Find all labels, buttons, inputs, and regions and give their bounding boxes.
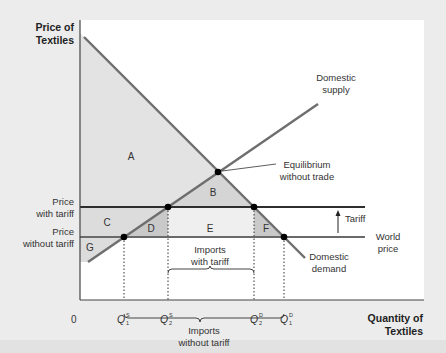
supply-label-2: supply (322, 84, 350, 95)
world-price-label-1: World (376, 231, 401, 242)
svg-text:1: 1 (126, 320, 129, 326)
area-f-label: F (263, 223, 269, 234)
svg-text:Q: Q (117, 313, 125, 325)
area-e-label: E (207, 223, 214, 234)
svg-text:S: S (169, 312, 173, 318)
price-without-tariff-label-1: Price (52, 226, 74, 237)
price-with-tariff-label-2: with tariff (35, 208, 74, 219)
point-q2d (251, 204, 258, 211)
svg-text:2: 2 (259, 320, 262, 326)
quantity-q2s: Q S 2 (160, 312, 173, 326)
x-axis-label-2: Textiles (385, 325, 423, 337)
price-with-tariff-label-1: Price (52, 196, 74, 207)
tariff-diagram: Price of Textiles Quantity of Textiles 0… (0, 0, 446, 353)
point-q1d (281, 234, 288, 241)
quantity-q2d: Q D 2 (250, 312, 263, 326)
demand-label-1: Domestic (309, 251, 349, 262)
imports-without-tariff-label-2: without tariff (177, 337, 229, 348)
svg-text:Q: Q (280, 313, 288, 325)
svg-text:Q: Q (160, 313, 168, 325)
quantity-q1s: Q S 1 (117, 312, 130, 326)
x-axis-label-1: Quantity of (368, 312, 424, 324)
world-price-label-2: price (378, 243, 399, 254)
point-q1s (121, 234, 128, 241)
equilibrium-point (215, 169, 222, 176)
svg-text:Q: Q (250, 313, 258, 325)
imports-without-tariff-label-1: Imports (188, 325, 220, 336)
svg-text:D: D (259, 312, 263, 318)
tariff-label: Tariff (345, 213, 366, 224)
svg-text:S: S (126, 312, 130, 318)
area-d-label: D (147, 223, 154, 234)
y-axis-label-2: Textiles (36, 34, 74, 46)
svg-text:2: 2 (169, 320, 172, 326)
imports-with-tariff-label-1: Imports (194, 244, 226, 255)
area-g-label: G (86, 242, 94, 253)
origin-label: 0 (71, 314, 77, 325)
demand-label-2: demand (312, 263, 346, 274)
y-axis-label-1: Price of (35, 21, 74, 33)
area-b-label: B (210, 187, 217, 198)
equilibrium-label-2: without trade (279, 171, 334, 182)
quantity-q1d: Q D 1 (280, 312, 293, 326)
equilibrium-label-1: Equilibrium (284, 159, 331, 170)
price-without-tariff-label-2: without tariff (22, 238, 74, 249)
area-c-label: C (103, 217, 110, 228)
area-a-label: A (128, 151, 135, 162)
svg-text:D: D (289, 312, 293, 318)
svg-text:1: 1 (289, 320, 292, 326)
supply-label-1: Domestic (316, 72, 356, 83)
imports-with-tariff-label-2: with tariff (190, 256, 229, 267)
point-q2s (165, 204, 172, 211)
